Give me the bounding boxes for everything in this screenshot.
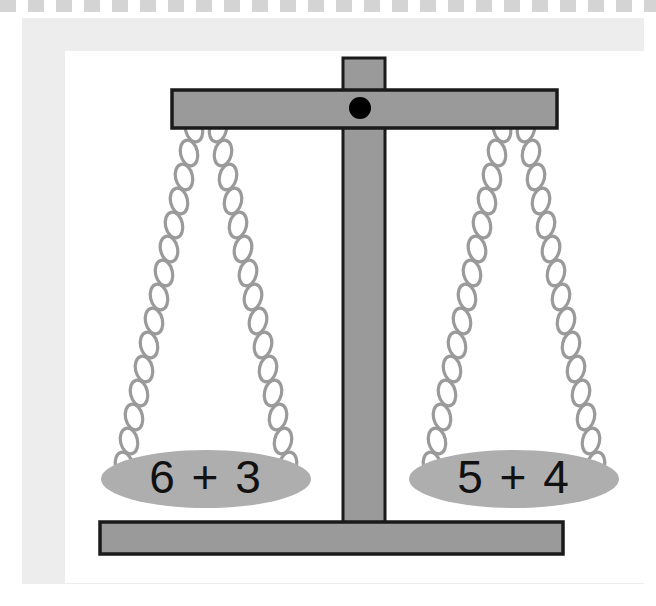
right-chain-strand-inner xyxy=(510,90,607,479)
page-root: 6 + 3 5 + 4 xyxy=(0,0,656,606)
dashed-strip-decoration xyxy=(0,0,656,12)
right-chain xyxy=(421,90,607,479)
left-pan-expression: 6 + 3 xyxy=(149,451,263,503)
left-chain xyxy=(113,90,299,479)
left-chain-strand-outer xyxy=(113,90,210,479)
scale-post xyxy=(343,93,385,525)
balance-scale-svg: 6 + 3 5 + 4 xyxy=(43,33,623,565)
balance-scale-illustration: 6 + 3 5 + 4 xyxy=(43,33,623,565)
scale-base xyxy=(100,522,563,554)
right-pan-expression: 5 + 4 xyxy=(457,451,571,503)
scale-pivot-dot xyxy=(349,97,371,119)
right-chain-strand-outer xyxy=(421,90,518,479)
left-chain-strand-inner xyxy=(202,90,299,479)
